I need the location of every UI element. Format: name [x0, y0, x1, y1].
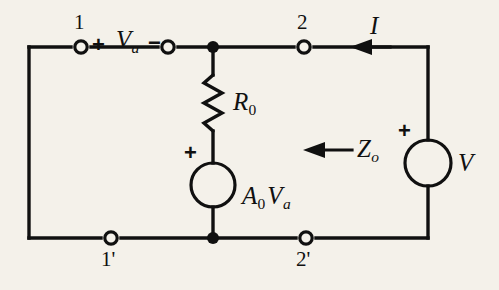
input-minus-sign: − [148, 32, 161, 54]
terminal-2-circle [298, 41, 310, 53]
terminal-label-2-prime: 2' [296, 249, 310, 270]
input-voltage-label: Va [116, 27, 139, 55]
independent-source-plus-sign: + [398, 120, 411, 142]
dependent-source-label: A0Va [242, 183, 291, 211]
terminal-label-1: 1 [74, 12, 85, 33]
circuit-figure: 1 2 1' 2' + Va − R0 + A0Va I Zo + V [0, 0, 499, 290]
current-label: I [370, 13, 378, 38]
output-impedance-symbol: Z [357, 135, 371, 162]
terminal-2-prime-circle [300, 232, 312, 244]
input-voltage-subscript: a [131, 39, 139, 56]
independent-source-circle [405, 140, 451, 186]
circuit-schematic-canvas [0, 0, 499, 290]
input-voltage-symbol: V [116, 26, 131, 53]
resistor-symbol: R [233, 88, 248, 115]
node-dot-bottom [207, 232, 219, 244]
resistor-zigzag [204, 75, 222, 131]
terminal-label-1-prime: 1' [101, 249, 115, 270]
output-impedance-label: Zo [357, 136, 379, 164]
terminal-input-minus-circle [162, 41, 174, 53]
dependent-source-voltage-subscript: a [283, 195, 291, 212]
input-plus-sign: + [92, 34, 105, 56]
dependent-source-voltage-symbol: V [265, 182, 282, 209]
output-impedance-subscript: o [371, 148, 379, 165]
node-dot-top [207, 41, 219, 53]
terminal-label-2: 2 [297, 12, 308, 33]
dependent-source-gain-symbol: A [242, 182, 257, 209]
source-voltage-label: V [458, 150, 473, 175]
terminal-1-circle [75, 41, 87, 53]
impedance-arrow-head [303, 142, 325, 158]
resistor-subscript: 0 [248, 101, 256, 118]
dependent-source-plus-sign: + [184, 142, 197, 164]
resistor-label: R0 [233, 89, 256, 117]
current-arrow-head [350, 39, 372, 55]
dependent-source-circle [191, 163, 235, 207]
terminal-1-prime-circle [105, 232, 117, 244]
